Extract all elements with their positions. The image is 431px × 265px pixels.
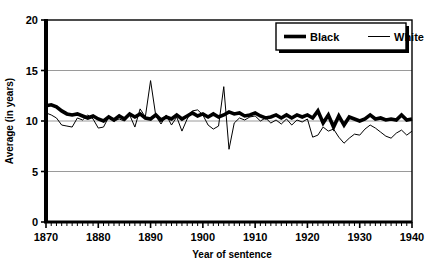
x-tick-label: 1910 xyxy=(243,231,267,243)
x-axis-title: Year of sentence xyxy=(192,249,272,260)
y-tick-labels: 05101520 xyxy=(26,14,38,228)
series-black-line xyxy=(46,105,412,127)
x-tick-label: 1880 xyxy=(86,231,110,243)
chart-figure: 05101520 1870188018901900191019201930194… xyxy=(0,0,431,265)
legend-label-white: White xyxy=(394,31,424,43)
legend-box[interactable]: BlackWhite xyxy=(276,23,424,53)
y-tick-label: 10 xyxy=(26,115,38,127)
series-white-line xyxy=(46,81,412,150)
x-tick-labels: 18701880189019001910192019301940 xyxy=(34,231,424,243)
x-tick-label: 1870 xyxy=(34,231,58,243)
clipped-figure-title xyxy=(0,0,431,3)
y-tick-label: 20 xyxy=(26,14,38,26)
x-tick-label: 1940 xyxy=(400,231,424,243)
line-chart-canvas: 05101520 1870188018901900191019201930194… xyxy=(0,0,431,265)
y-tick-label: 15 xyxy=(26,65,38,77)
x-tick-label: 1920 xyxy=(295,231,319,243)
x-tick-label: 1890 xyxy=(138,231,162,243)
series-path-white xyxy=(46,81,412,150)
series-path-black xyxy=(46,105,412,127)
legend-label-black: Black xyxy=(310,31,340,43)
y-tick-label: 5 xyxy=(32,166,38,178)
x-tick-label: 1930 xyxy=(347,231,371,243)
x-tick-label: 1900 xyxy=(191,231,215,243)
y-axis-title: Average (in years) xyxy=(4,78,15,164)
y-tick-label: 0 xyxy=(32,216,38,228)
